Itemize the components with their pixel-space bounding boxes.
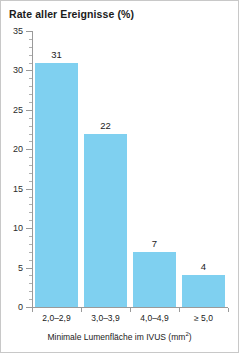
y-tick-label: 30	[1, 65, 23, 75]
chart-figure: Rate aller Ereignisse (%) 05101520253035…	[0, 0, 239, 353]
x-axis-title: Minimale Lumenfläche im IVUS (mm2)	[1, 331, 238, 342]
bar-value-label: 7	[152, 238, 157, 249]
y-tick-label: 5	[1, 263, 23, 273]
bar	[133, 252, 176, 307]
bar-value-label: 31	[51, 49, 62, 60]
y-tick-label: 0	[1, 302, 23, 312]
x-tick	[32, 308, 33, 312]
plot-area	[32, 31, 228, 307]
chart-title: Rate aller Ereignisse (%)	[9, 8, 134, 20]
bar-value-label: 22	[100, 120, 111, 131]
x-axis-title-main: Minimale Lumenfläche im IVUS (mm	[47, 332, 185, 342]
y-tick-label: 35	[1, 26, 23, 36]
x-tick	[228, 308, 229, 312]
x-axis-title-tail: )	[189, 332, 192, 342]
y-tick-label: 15	[1, 184, 23, 194]
bar	[84, 134, 127, 307]
bar	[35, 63, 78, 307]
x-tick	[81, 308, 82, 312]
bar	[182, 275, 225, 307]
y-tick-label: 10	[1, 223, 23, 233]
y-tick-label: 20	[1, 144, 23, 154]
x-category-label: 2,0–2,9	[42, 313, 70, 323]
x-category-label: 3,0–3,9	[91, 313, 119, 323]
bar-value-label: 4	[201, 261, 206, 272]
x-tick	[179, 308, 180, 312]
x-category-label: 4,0–4,9	[140, 313, 168, 323]
y-tick-label: 25	[1, 105, 23, 115]
x-tick	[130, 308, 131, 312]
x-category-label: ≥ 5,0	[194, 313, 213, 323]
